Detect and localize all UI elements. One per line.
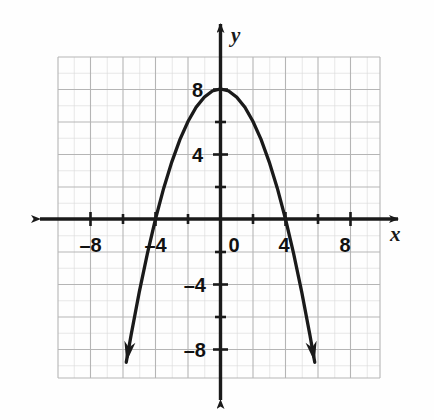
- x-tick-label--8: –8: [79, 234, 101, 256]
- x-tick-label-8: 8: [339, 234, 350, 256]
- x-tick-label--4: –4: [144, 234, 167, 256]
- y-tick-label-8: 8: [192, 79, 203, 101]
- x-tick-label-4: 4: [278, 234, 290, 256]
- y-axis-label: y: [228, 23, 241, 47]
- y-tick-label--8: –8: [184, 339, 206, 361]
- x-tick-label-0: 0: [228, 234, 239, 256]
- y-tick-label--4: –4: [184, 274, 207, 296]
- x-axis-label: x: [389, 222, 401, 246]
- y-tick-label-4: 4: [192, 144, 204, 166]
- coordinate-plane-svg: y x –8 –4 0 4 8 8 4 –4 –8: [0, 0, 434, 420]
- graph-figure: y x –8 –4 0 4 8 8 4 –4 –8: [0, 0, 434, 420]
